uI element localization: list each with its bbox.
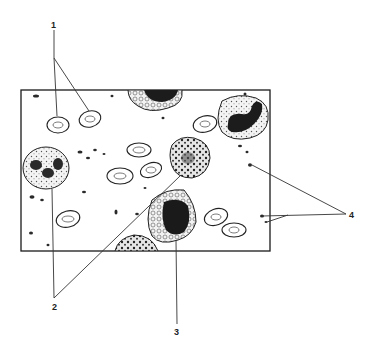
platelet xyxy=(246,151,249,153)
platelet xyxy=(40,199,44,201)
band-neutrophil xyxy=(218,96,268,140)
blood-smear-diagram: 1 2 3 4 xyxy=(0,0,381,357)
platelet xyxy=(144,187,147,189)
rbc xyxy=(107,168,133,184)
platelet xyxy=(93,149,97,151)
platelet xyxy=(248,163,252,166)
platelet xyxy=(86,157,90,160)
platelet xyxy=(29,232,33,235)
rbc xyxy=(47,117,69,133)
platelet xyxy=(82,191,86,193)
label-2: 2 xyxy=(52,302,57,312)
eosinophil xyxy=(170,137,210,178)
rbc xyxy=(127,143,151,157)
platelet xyxy=(244,93,247,96)
leader-line-3 xyxy=(176,240,177,324)
label-1: 1 xyxy=(51,20,56,30)
label-3: 3 xyxy=(174,327,179,337)
platelet xyxy=(111,95,114,97)
platelet xyxy=(47,244,50,246)
neutrophil xyxy=(23,147,69,189)
monocyte xyxy=(148,190,196,243)
platelet xyxy=(162,117,165,119)
platelet xyxy=(115,210,118,215)
platelet xyxy=(103,153,106,155)
label-4: 4 xyxy=(349,210,354,220)
platelet xyxy=(135,213,139,215)
platelet xyxy=(238,145,242,148)
rbc xyxy=(222,223,246,237)
platelet xyxy=(30,195,35,199)
platelet xyxy=(33,95,39,98)
platelet xyxy=(78,151,83,154)
